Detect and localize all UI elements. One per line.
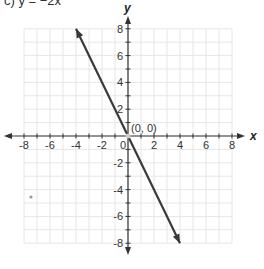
x-axis-right-arrow-icon bbox=[237, 133, 245, 139]
x-tick-label: 2 bbox=[151, 139, 157, 151]
x-tick-label: 8 bbox=[229, 139, 235, 151]
x-tick-label: -6 bbox=[45, 139, 55, 151]
y-tick-label: 6 bbox=[117, 50, 123, 62]
x-tick-label: 4 bbox=[177, 139, 183, 151]
line-arrow-down-icon bbox=[173, 234, 180, 244]
stray-dot bbox=[29, 195, 32, 198]
coordinate-plane: -8-6-4-202468-8-6-4-22468xy(0, 0) bbox=[0, 0, 264, 269]
x-axis-left-arrow-icon bbox=[4, 133, 12, 139]
origin-point-label: (0, 0) bbox=[131, 122, 157, 134]
origin-point bbox=[126, 134, 131, 139]
axis-labels: -8-6-4-202468-8-6-4-22468xy(0, 0) bbox=[19, 1, 258, 249]
y-tick-label: 2 bbox=[117, 103, 123, 115]
y-axis-label: y bbox=[123, 1, 132, 15]
y-axis-up-arrow-icon bbox=[125, 16, 131, 24]
line-arrow-up-icon bbox=[76, 29, 83, 39]
y-tick-label: 4 bbox=[117, 76, 123, 88]
x-tick-label: -8 bbox=[19, 139, 29, 151]
y-tick-label: -6 bbox=[113, 210, 123, 222]
x-tick-label: 6 bbox=[203, 139, 209, 151]
x-axis-label: x bbox=[249, 129, 258, 143]
y-tick-label: -4 bbox=[113, 184, 123, 196]
axes bbox=[4, 16, 245, 255]
y-axis-down-arrow-icon bbox=[125, 247, 131, 255]
y-tick-label: -8 bbox=[113, 237, 123, 249]
y-tick-label: -2 bbox=[113, 157, 123, 169]
x-tick-label: 0 bbox=[120, 139, 126, 151]
x-tick-label: -4 bbox=[71, 139, 81, 151]
x-tick-label: -2 bbox=[97, 139, 107, 151]
y-tick-label: 8 bbox=[117, 23, 123, 35]
